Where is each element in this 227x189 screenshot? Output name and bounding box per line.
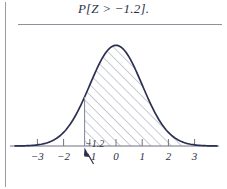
plot-svg: [0, 26, 227, 166]
x-axis-tick-label: 3: [192, 150, 198, 162]
normal-distribution-plot: −3−2−10123 −1.2: [0, 26, 227, 166]
shaded-tail-area: [85, 45, 217, 146]
x-axis-tick-label: −2: [57, 150, 70, 162]
x-axis-tick-label: 1: [139, 150, 145, 162]
callout-value-label: −1.2: [85, 138, 104, 149]
x-axis-tick-label: −1: [83, 150, 96, 162]
x-axis-tick-label: −3: [31, 150, 44, 162]
figure-title: P[Z > −1.2].: [0, 1, 227, 17]
x-axis-tick-label: 2: [166, 150, 172, 162]
horizontal-divider-rule: [18, 24, 222, 25]
figure-page: P[Z > −1.2].: [0, 0, 227, 189]
shaded-area-group: [85, 45, 217, 146]
x-axis-tick-label: 0: [113, 150, 119, 162]
